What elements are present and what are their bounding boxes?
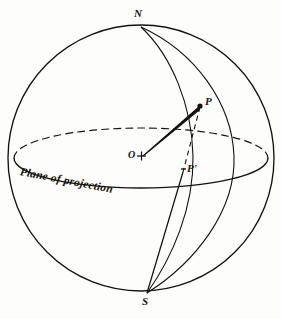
paper-background [0,0,281,319]
label-center-o: O [128,150,135,160]
label-point-p-prime: P' [187,163,197,174]
stereographic-projection-figure: N S P P' O Plane of projection [0,0,281,319]
diagram-canvas [0,0,281,319]
label-north-pole: N [134,8,142,19]
label-point-p: P [205,96,212,107]
label-south-pole: S [142,296,148,307]
point-marker-p [197,103,202,108]
